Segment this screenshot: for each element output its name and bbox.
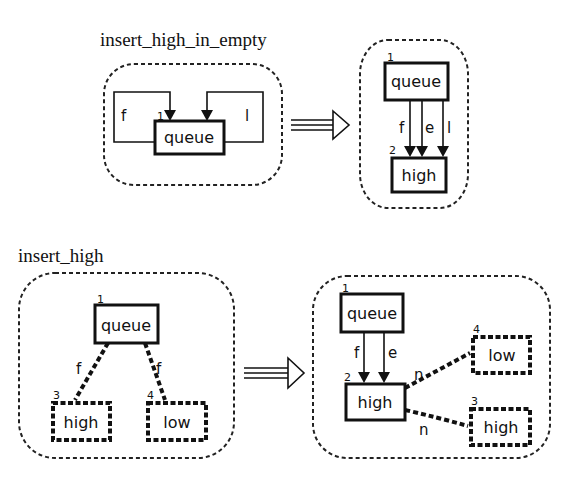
node-label-queue: queue	[164, 128, 214, 147]
node-id: 1	[157, 110, 164, 123]
node-id: 1	[387, 51, 394, 64]
edge-label-f: f	[354, 344, 360, 362]
node-id: 4	[473, 323, 480, 336]
edge-label-e: e	[388, 344, 397, 362]
edge-label-l: l	[447, 119, 451, 137]
node-label-queue: queue	[101, 316, 151, 335]
edge-label-f: f	[121, 107, 127, 125]
edge-label-n: n	[419, 421, 429, 439]
node-id: 3	[471, 395, 478, 408]
arrowhead-icon	[416, 146, 428, 157]
rewrite-arrow-icon	[244, 358, 304, 388]
edge-n-hatched	[405, 410, 468, 426]
edge-label-n: n	[414, 366, 424, 384]
edge-label-e: e	[425, 119, 434, 137]
node-label-low: low	[488, 346, 515, 365]
node-id: 3	[53, 389, 60, 402]
rule-title-insert-high: insert_high	[18, 245, 104, 266]
arrowhead-icon	[201, 110, 213, 121]
edge-label-f: f	[76, 360, 82, 378]
node-label-high: high	[64, 413, 99, 432]
arrowhead-icon	[164, 110, 176, 121]
node-id: 4	[147, 389, 154, 402]
node-label-low: low	[163, 413, 190, 432]
node-label-high: high	[402, 166, 437, 185]
rewrite-arrow-icon	[291, 111, 349, 139]
arrowhead-icon	[378, 372, 390, 383]
edge-label-f: f	[156, 360, 162, 378]
arrowhead-icon	[437, 146, 449, 157]
node-id: 1	[342, 282, 349, 295]
edge-label-l: l	[245, 107, 249, 125]
node-id: 2	[389, 144, 396, 157]
arrowhead-icon	[404, 146, 416, 157]
node-label-queue: queue	[391, 72, 441, 91]
node-id: 2	[344, 371, 351, 384]
node-id: 1	[97, 293, 104, 306]
rule-title-insert-high-in-empty: insert_high_in_empty	[100, 29, 267, 50]
node-label-high: high	[358, 393, 393, 412]
edge-label-f: f	[399, 119, 405, 137]
arrowhead-icon	[358, 372, 370, 383]
node-label-high: high	[484, 418, 519, 437]
node-label-queue: queue	[347, 304, 397, 323]
